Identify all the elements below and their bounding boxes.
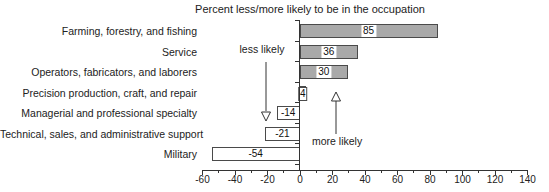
x-axis-tick-label: 120 — [487, 174, 504, 185]
zero-axis-tick — [295, 41, 299, 42]
zero-axis-tick — [295, 102, 299, 103]
zero-axis-tick — [295, 20, 299, 21]
x-axis-tick-label: -20 — [260, 174, 274, 185]
bar-value-label: -21 — [275, 128, 289, 140]
bar-value-label: 36 — [321, 46, 336, 58]
x-axis-minor-tick — [446, 170, 447, 173]
zero-axis-tick — [295, 164, 299, 165]
x-axis-minor-tick — [348, 170, 349, 173]
x-axis-minor-tick — [218, 170, 219, 173]
x-axis-tick-label: 60 — [392, 174, 403, 185]
x-axis-tick-label: 100 — [454, 174, 471, 185]
zero-axis-tick — [295, 123, 299, 124]
x-axis-tick-label: -60 — [195, 174, 209, 185]
bar-value-label: -14 — [281, 107, 295, 119]
more-likely-arrowhead-icon — [332, 92, 341, 101]
x-axis-minor-tick — [381, 170, 382, 173]
bar-value-label: 30 — [316, 66, 331, 78]
occupation-likelihood-chart: Percent less/more likely to be in the oc… — [0, 0, 549, 192]
x-axis-tick-label: 0 — [297, 174, 303, 185]
x-axis-tick-label: 20 — [327, 174, 338, 185]
category-label: Managerial and professional specialty — [0, 107, 197, 119]
x-axis-minor-tick — [283, 170, 284, 173]
category-label: Technical, sales, and administrative sup… — [0, 128, 197, 140]
bar-value-label: -54 — [248, 148, 262, 160]
x-axis-minor-tick — [251, 170, 252, 173]
zero-axis-tick — [295, 82, 299, 83]
x-axis-tick-label: 140 — [519, 174, 536, 185]
category-label: Precision production, craft, and repair — [0, 87, 197, 99]
category-label: Military — [0, 148, 197, 160]
zero-axis-line — [299, 20, 300, 170]
annotation-less-likely: less likely — [240, 43, 285, 55]
x-axis-minor-tick — [316, 170, 317, 173]
category-label: Operators, fabricators, and laborers — [0, 66, 197, 78]
category-label: Farming, forestry, and fishing — [0, 25, 197, 37]
x-axis-tick-label: -40 — [228, 174, 242, 185]
bar-value-label: 85 — [361, 25, 376, 37]
x-axis-tick-label: 40 — [359, 174, 370, 185]
category-label: Service — [0, 46, 197, 58]
x-axis-tick-label: 80 — [424, 174, 435, 185]
less-likely-arrowhead-icon — [262, 112, 271, 121]
x-axis-minor-tick — [413, 170, 414, 173]
x-axis-minor-tick — [478, 170, 479, 173]
x-axis-minor-tick — [511, 170, 512, 173]
zero-axis-tick — [295, 143, 299, 144]
zero-axis-tick — [295, 61, 299, 62]
annotation-more-likely: more likely — [312, 135, 362, 147]
chart-title: Percent less/more likely to be in the oc… — [195, 3, 425, 15]
